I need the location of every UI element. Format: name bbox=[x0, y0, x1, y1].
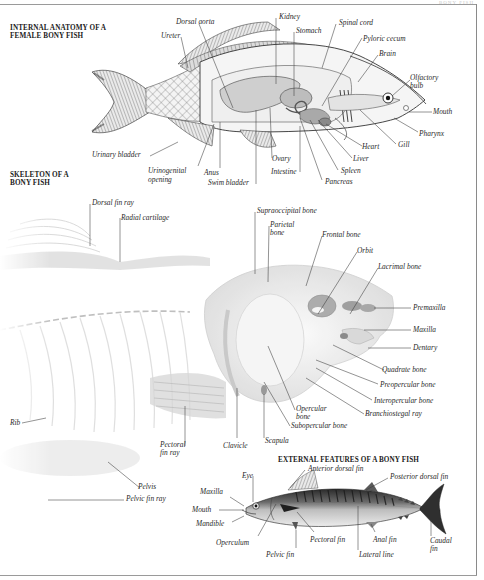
bony-fish-reference-page: BONY FISH bbox=[0, 0, 484, 580]
label-mandible: Mandible bbox=[196, 520, 224, 528]
label-mouth-external: Mouth bbox=[192, 506, 211, 514]
skeleton-title-line1: SKELETON OF A bbox=[10, 171, 69, 179]
label-spinal-cord: Spinal cord bbox=[339, 19, 373, 27]
label-opercular-bone-line2: bone bbox=[296, 413, 310, 421]
label-interopercular-bone: Interopercular bone bbox=[374, 397, 433, 405]
label-maxilla-external: Maxilla bbox=[200, 488, 223, 496]
label-quadrate-bone: Quadrate bone bbox=[382, 366, 427, 374]
label-stomach: Stomach bbox=[296, 27, 321, 35]
label-brain: Brain bbox=[379, 50, 396, 58]
label-pectoral-fin: Pectoral fin bbox=[310, 536, 345, 544]
label-eye: Eye bbox=[242, 472, 253, 480]
label-ureter: Ureter bbox=[161, 32, 180, 40]
label-dorsal-aorta: Dorsal aorta bbox=[176, 18, 214, 26]
label-urinary-bladder: Urinary bladder bbox=[92, 151, 141, 159]
label-pectoral-fin-ray-line2: fin ray bbox=[160, 449, 180, 457]
label-caudal-fin-line2: fin bbox=[430, 545, 438, 553]
label-operculum: Operculum bbox=[216, 539, 249, 547]
label-parietal-line2: bone bbox=[270, 229, 284, 237]
label-subopercular-bone: Subopercular bone bbox=[291, 422, 347, 430]
label-premaxilla: Premaxilla bbox=[413, 304, 446, 312]
label-pelvic-fin: Pelvic fin bbox=[266, 551, 294, 559]
label-pelvis: Pelvis bbox=[138, 483, 156, 491]
label-scapula: Scapula bbox=[265, 437, 289, 445]
label-kidney: Kidney bbox=[279, 13, 300, 21]
label-lacrimal-bone: Lacrimal bone bbox=[378, 263, 421, 271]
label-ovary: Ovary bbox=[272, 155, 290, 163]
label-urinogenital-line1: Urinogenital bbox=[148, 167, 186, 175]
label-preopercular-bone: Preopercular bone bbox=[380, 381, 435, 389]
label-spleen: Spleen bbox=[341, 167, 361, 175]
label-pharynx: Pharynx bbox=[419, 130, 444, 138]
label-heart: Heart bbox=[362, 143, 379, 151]
label-olfactory-bulb-line2: bulb bbox=[410, 82, 423, 90]
internal-anatomy-title: INTERNAL ANATOMY OF A FEMALE BONY FISH bbox=[10, 24, 106, 40]
internal-anatomy-title-line1: INTERNAL ANATOMY OF A bbox=[10, 24, 106, 32]
label-dentary: Dentary bbox=[413, 344, 437, 352]
label-swim-bladder: Swim bladder bbox=[208, 179, 249, 187]
label-maxilla-skeleton: Maxilla bbox=[413, 326, 436, 334]
label-anal-fin: Anal fin bbox=[373, 536, 397, 544]
label-orbit: Orbit bbox=[357, 247, 373, 255]
label-supraoccipital-bone: Supraoccipital bone bbox=[257, 207, 317, 215]
skeleton-title: SKELETON OF A BONY FISH bbox=[10, 171, 69, 187]
skeleton-title-line2: BONY FISH bbox=[10, 179, 69, 187]
internal-anatomy-title-line2: FEMALE BONY FISH bbox=[10, 32, 106, 40]
label-lateral-line: Lateral line bbox=[359, 551, 394, 559]
label-branchiostegal-ray: Branchiostegal ray bbox=[365, 410, 422, 418]
label-pyloric-cecum: Pyloric cecum bbox=[363, 35, 405, 43]
label-anterior-dorsal-fin: Anterior dorsal fin bbox=[308, 465, 363, 473]
label-pelvic-fin-ray: Pelvic fin ray bbox=[126, 495, 166, 503]
label-posterior-dorsal-fin: Posterior dorsal fin bbox=[390, 473, 448, 481]
label-dorsal-fin-ray: Dorsal fin ray bbox=[92, 199, 134, 207]
label-radial-cartilage: Radial cartilage bbox=[121, 214, 169, 222]
label-pancreas: Pancreas bbox=[325, 178, 353, 186]
label-rib: Rib bbox=[10, 419, 20, 427]
label-clavicle: Clavicle bbox=[223, 442, 248, 450]
label-urinogenital-line2: opening bbox=[148, 176, 172, 184]
label-anus: Anus bbox=[204, 169, 219, 177]
label-frontal-bone: Frontal bone bbox=[322, 231, 361, 239]
external-features-title: EXTERNAL FEATURES OF A BONY FISH bbox=[278, 456, 419, 464]
label-gill: Gill bbox=[398, 141, 410, 149]
label-intestine: Intestine bbox=[271, 168, 296, 176]
label-liver: Liver bbox=[353, 155, 369, 163]
label-mouth-internal: Mouth bbox=[433, 108, 452, 116]
skeleton-illustration bbox=[0, 219, 394, 480]
